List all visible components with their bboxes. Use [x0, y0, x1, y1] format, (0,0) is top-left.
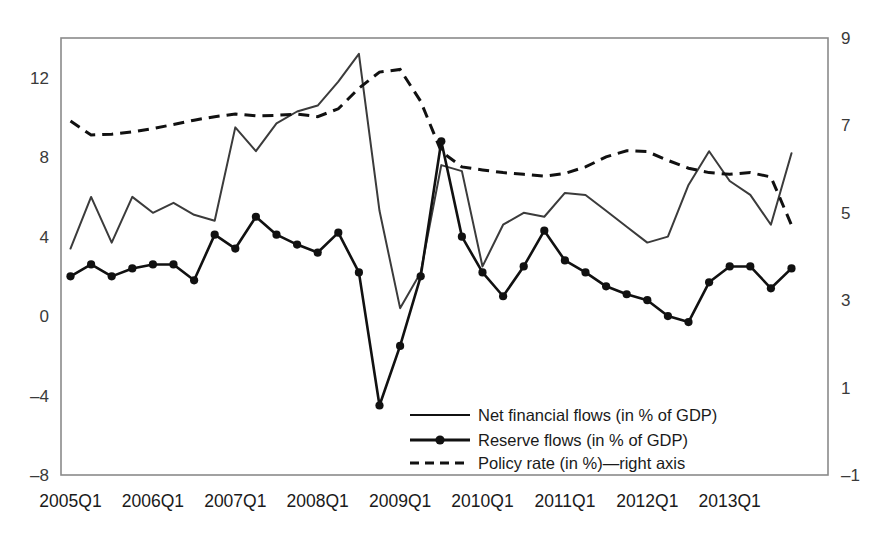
series-marker-point — [128, 264, 136, 272]
chart-figure: 12840–4–8 97531–1 2005Q12006Q12007Q12008… — [0, 0, 882, 534]
y-axis-left-tick-label: –8 — [30, 466, 49, 485]
y-axis-left-tick-label: –4 — [30, 387, 49, 406]
series-marker-point — [726, 262, 734, 270]
legend-label-3: Policy rate (in %)—right axis — [478, 454, 685, 472]
y-axis-left-tick-label: 12 — [30, 69, 49, 88]
y-axis-left-tick-label: 8 — [40, 148, 49, 167]
series-marker-point — [581, 268, 589, 276]
x-axis-tick-label: 2012Q1 — [616, 491, 678, 511]
y-axis-left-tick-label: 0 — [40, 307, 49, 326]
series-marker-point — [767, 284, 775, 292]
series-marker-point — [66, 272, 74, 280]
series-marker-point — [87, 260, 95, 268]
series-marker-point — [334, 229, 342, 237]
legend-label-2: Reserve flows (in % of GDP) — [478, 431, 688, 449]
line-chart: 12840–4–8 97531–1 2005Q12006Q12007Q12008… — [0, 0, 882, 534]
series-marker-point — [190, 276, 198, 284]
series-marker-point — [684, 318, 692, 326]
y-axis-right-tick-label: –1 — [841, 466, 860, 485]
x-axis-tick-label: 2006Q1 — [122, 491, 184, 511]
series-marker-point — [355, 268, 363, 276]
series-marker-point — [108, 272, 116, 280]
legend-swatch-marker — [435, 435, 444, 444]
series-marker-point — [478, 268, 486, 276]
x-axis-ticks: 2005Q12006Q12007Q12008Q12009Q12010Q12011… — [39, 491, 760, 511]
series-marker-point — [293, 240, 301, 248]
y-axis-right-tick-label: 3 — [841, 291, 850, 310]
x-axis-tick-label: 2005Q1 — [39, 491, 101, 511]
series-marker-point — [231, 244, 239, 252]
series-marker-point — [602, 282, 610, 290]
series-marker-point — [520, 262, 528, 270]
series-marker-point — [643, 296, 651, 304]
x-axis-tick-label: 2009Q1 — [369, 491, 431, 511]
x-axis-tick-label: 2011Q1 — [534, 491, 595, 511]
series-marker-point — [499, 292, 507, 300]
y-axis-left-tick-label: 4 — [40, 228, 49, 247]
series-marker-point — [540, 227, 548, 235]
series-marker-point — [417, 272, 425, 280]
series-marker-point — [314, 248, 322, 256]
series-marker-point — [787, 264, 795, 272]
series-marker-point — [623, 290, 631, 298]
series-marker-point — [664, 312, 672, 320]
series-marker-point — [375, 401, 383, 409]
x-axis-tick-label: 2013Q1 — [699, 491, 761, 511]
legend-label-1: Net financial flows (in % of GDP) — [478, 406, 717, 424]
x-axis-tick-label: 2008Q1 — [287, 491, 349, 511]
x-axis-tick-label: 2007Q1 — [204, 491, 266, 511]
series-marker-point — [705, 278, 713, 286]
series-marker-point — [746, 262, 754, 270]
series-marker-point — [561, 256, 569, 264]
series-marker-point — [211, 231, 219, 239]
y-axis-right-tick-label: 7 — [841, 116, 850, 135]
x-axis-tick-label: 2010Q1 — [451, 491, 513, 511]
series-marker-point — [169, 260, 177, 268]
series-marker-point — [272, 231, 280, 239]
chart-legend: Net financial flows (in % of GDP)Reserve… — [410, 406, 717, 472]
series-marker-point — [149, 260, 157, 268]
y-axis-right-tick-label: 9 — [841, 29, 850, 48]
series-marker-point — [458, 233, 466, 241]
series-marker-point — [396, 342, 404, 350]
y-axis-right-tick-label: 5 — [841, 204, 850, 223]
series-marker-point — [252, 213, 260, 221]
y-axis-right-tick-label: 1 — [841, 379, 850, 398]
